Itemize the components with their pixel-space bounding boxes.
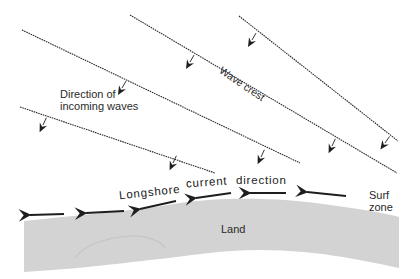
arrow-left-icon: [307, 192, 346, 196]
land-label: Land: [221, 223, 245, 235]
arrow-down-icon: [245, 31, 260, 49]
label-line: incoming waves: [60, 100, 138, 112]
arrow-down-icon: [254, 148, 268, 166]
wave-crest-line: [20, 107, 215, 173]
direction-label: direction: [236, 174, 287, 187]
longshore-current-diagram: [0, 0, 420, 279]
arrow-left-icon: [196, 193, 231, 198]
label-line: zone: [369, 201, 393, 213]
label-line: Surf: [369, 189, 393, 201]
label-line: Direction of: [60, 88, 138, 100]
arrow-left-icon: [30, 214, 64, 215]
surf-zone-label: Surf zone: [369, 189, 393, 213]
arrow-down-icon: [377, 134, 393, 152]
arrow-down-icon: [183, 53, 198, 71]
arrow-down-icon: [36, 116, 50, 134]
arrow-down-icon: [325, 137, 339, 155]
direction-of-incoming-waves-label: Direction of incoming waves: [60, 88, 138, 112]
wave-crest-line: [239, 16, 398, 141]
land-shape: [24, 199, 399, 272]
